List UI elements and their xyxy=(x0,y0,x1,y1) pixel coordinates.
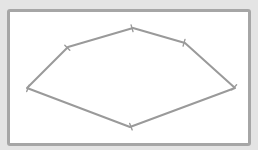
vertex-tick-v3 xyxy=(131,25,133,32)
polygon-outline xyxy=(27,28,235,127)
polygon-drawing xyxy=(0,0,258,150)
canvas xyxy=(0,0,258,150)
vertex-tick-v4 xyxy=(183,39,185,46)
polygon-shape xyxy=(27,28,235,127)
vertex-markers xyxy=(27,25,237,130)
